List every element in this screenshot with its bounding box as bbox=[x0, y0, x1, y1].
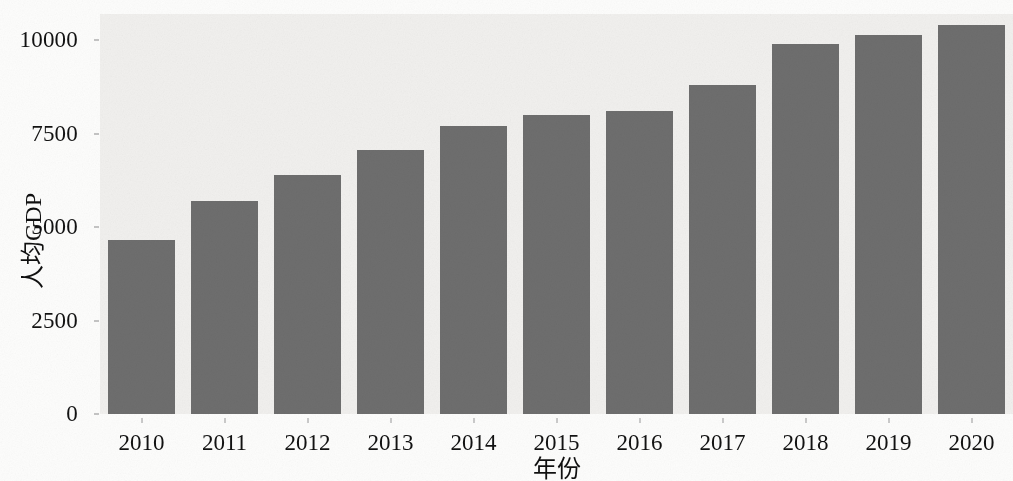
bar-2018 bbox=[772, 44, 838, 414]
x-tick-mark bbox=[805, 418, 806, 423]
bar-2020 bbox=[938, 25, 1004, 414]
x-tick-mark bbox=[390, 418, 391, 423]
x-tick-mark bbox=[888, 418, 889, 423]
x-tick-mark bbox=[473, 418, 474, 423]
bar-2019 bbox=[855, 35, 921, 414]
bar-2010 bbox=[108, 240, 174, 414]
y-tick-label: 0 bbox=[66, 401, 78, 427]
x-tick-mark bbox=[722, 418, 723, 423]
bar-2013 bbox=[357, 150, 423, 414]
x-tick-mark bbox=[141, 418, 142, 423]
y-tick-mark bbox=[94, 320, 99, 321]
y-tick-mark bbox=[94, 133, 99, 134]
bar-2015 bbox=[523, 115, 589, 414]
bar-2011 bbox=[191, 201, 257, 414]
bar-2014 bbox=[440, 126, 506, 414]
x-tick-mark bbox=[224, 418, 225, 423]
x-tick-mark bbox=[971, 418, 972, 423]
y-tick-mark bbox=[94, 40, 99, 41]
y-tick-mark bbox=[94, 414, 99, 415]
x-tick-mark bbox=[307, 418, 308, 423]
x-tick-mark bbox=[556, 418, 557, 423]
plot-area bbox=[100, 14, 1013, 414]
bar-2016 bbox=[606, 111, 672, 414]
x-tick-mark bbox=[639, 418, 640, 423]
bar-chart-figure: 025005000750010000 人均GDP 201020112012201… bbox=[0, 0, 1013, 481]
y-tick-label: 10000 bbox=[20, 27, 79, 53]
bar-2012 bbox=[274, 175, 340, 414]
x-axis-title: 年份 bbox=[100, 449, 1013, 481]
bar-2017 bbox=[689, 85, 755, 414]
y-tick-mark bbox=[94, 227, 99, 228]
y-axis-title: 人均GDP bbox=[13, 141, 48, 341]
